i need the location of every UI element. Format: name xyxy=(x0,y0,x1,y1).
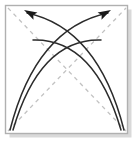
origami-diagram: Origami step: two curved fold arrows cro… xyxy=(0,0,136,143)
origami-diagram-canvas xyxy=(0,0,136,143)
